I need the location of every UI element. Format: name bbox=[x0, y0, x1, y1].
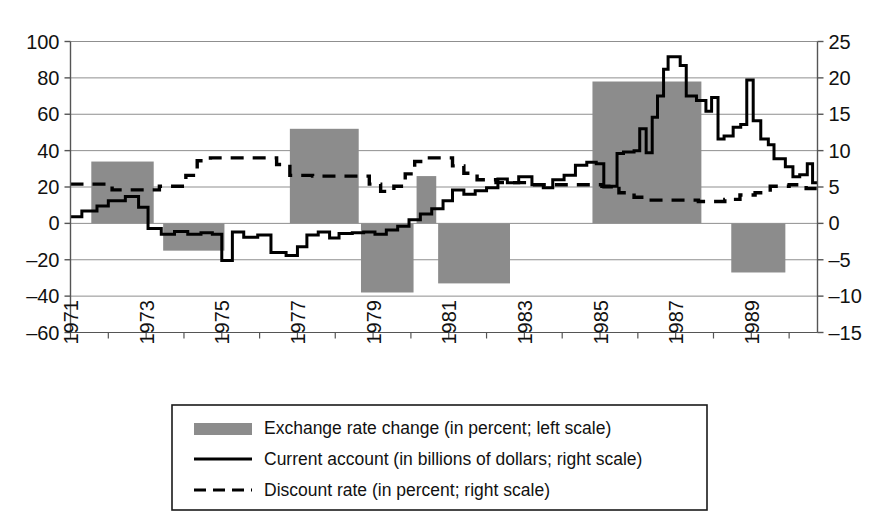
chart-canvas: –60–40–20020406080100 –15–10–50510152025… bbox=[0, 0, 879, 519]
right-axis-tick-label: 15 bbox=[829, 103, 851, 125]
x-axis-tick-label: 1981 bbox=[438, 300, 460, 345]
right-axis-tick-label: –10 bbox=[829, 285, 862, 307]
right-axis-tick-label: 20 bbox=[829, 67, 851, 89]
left-axis-tick-label: –20 bbox=[26, 249, 59, 271]
bar bbox=[91, 162, 153, 224]
left-axis-tick-label: 0 bbox=[48, 212, 59, 234]
x-axis-tick-label: 1973 bbox=[136, 300, 158, 345]
right-axis-tick-label: 10 bbox=[829, 140, 851, 162]
x-axis-tick-label: 1989 bbox=[741, 300, 763, 345]
x-axis-tick-label: 1977 bbox=[287, 300, 309, 345]
legend-item-label: Exchange rate change (in percent; left s… bbox=[264, 418, 611, 438]
right-axis-tick-label: 25 bbox=[829, 31, 851, 53]
x-axis-tick-label: 1983 bbox=[514, 300, 536, 345]
x-axis-tick-label: 1985 bbox=[590, 300, 612, 345]
legend-swatch-bar bbox=[194, 423, 252, 435]
bar bbox=[163, 223, 224, 250]
x-axis-tick-label: 1975 bbox=[211, 300, 233, 345]
left-axis-tick-label: –60 bbox=[26, 322, 59, 344]
right-axis-tick-label: 5 bbox=[829, 176, 840, 198]
legend-item-label: Current account (in billions of dollars;… bbox=[264, 449, 642, 469]
right-axis-tick-label: 0 bbox=[829, 212, 840, 234]
left-axis-tick-label: 100 bbox=[26, 31, 59, 53]
left-axis-tick-label: 40 bbox=[37, 140, 59, 162]
bar bbox=[731, 223, 785, 272]
left-axis-tick-label: 80 bbox=[37, 67, 59, 89]
right-axis-tick-label: –5 bbox=[829, 249, 851, 271]
legend-item-label: Discount rate (in percent; right scale) bbox=[264, 480, 550, 500]
left-axis-tick-label: 20 bbox=[37, 176, 59, 198]
x-axis-tick-label: 1971 bbox=[60, 300, 82, 345]
chart-figure: –60–40–20020406080100 –15–10–50510152025… bbox=[0, 0, 879, 519]
left-axis-tick-label: 60 bbox=[37, 103, 59, 125]
bar bbox=[438, 223, 510, 283]
left-axis-tick-label: –40 bbox=[26, 285, 59, 307]
x-axis-tick-label: 1987 bbox=[665, 300, 687, 345]
right-axis-tick-label: –15 bbox=[829, 322, 862, 344]
x-axis-tick-label: 1979 bbox=[363, 300, 385, 345]
legend: Exchange rate change (in percent; left s… bbox=[172, 405, 707, 510]
